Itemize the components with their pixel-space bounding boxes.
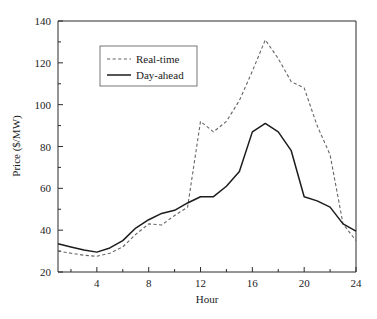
series-line-day-ahead — [58, 123, 356, 252]
x-tick-label: 24 — [351, 277, 363, 289]
chart-page: 20406080100120140 4812162024 Hour Price … — [0, 0, 377, 319]
x-tick-label: 20 — [299, 277, 311, 289]
x-tick-label: 4 — [94, 277, 100, 289]
price-comparison-line-chart: 20406080100120140 4812162024 Hour Price … — [0, 0, 377, 319]
y-axis-title: Price ($/MW) — [10, 115, 23, 177]
y-tick-label: 100 — [35, 99, 52, 111]
y-tick-label: 60 — [40, 182, 52, 194]
legend-label-real-time: Real-time — [136, 53, 179, 65]
y-axis-ticks — [58, 21, 63, 272]
x-axis-tick-labels: 4812162024 — [94, 277, 362, 289]
y-tick-label: 120 — [35, 57, 52, 69]
x-tick-label: 8 — [146, 277, 152, 289]
y-tick-label: 80 — [40, 141, 52, 153]
y-tick-label: 20 — [40, 266, 52, 278]
legend-label-day-ahead: Day-ahead — [136, 69, 184, 81]
y-tick-label: 140 — [35, 15, 52, 27]
x-axis-title: Hour — [196, 293, 219, 305]
x-axis-ticks — [71, 267, 356, 272]
chart-legend: Real-time Day-ahead — [100, 46, 197, 86]
x-tick-label: 12 — [195, 277, 206, 289]
x-tick-label: 16 — [247, 277, 259, 289]
y-tick-label: 40 — [40, 224, 52, 236]
y-axis-tick-labels: 20406080100120140 — [35, 15, 52, 278]
